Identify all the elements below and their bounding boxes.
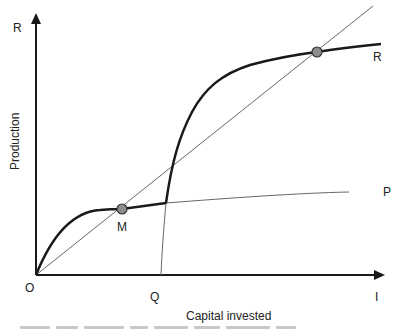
- curve-lower-thick: [36, 203, 166, 275]
- x-axis-arrowhead: [374, 270, 385, 280]
- q-label: Q: [150, 291, 159, 303]
- point-m: [117, 204, 127, 214]
- curve-p-label: P: [383, 186, 391, 198]
- y-axis-title: Production: [9, 113, 21, 170]
- diagonal-line: [36, 6, 373, 275]
- q-vertical-line: [161, 203, 166, 275]
- curve-r-label: R: [373, 51, 382, 63]
- curve-r: [166, 44, 381, 203]
- y-axis-end-label: R: [13, 22, 22, 34]
- origin-label: O: [25, 282, 34, 294]
- y-axis-arrowhead: [31, 13, 41, 24]
- curve-p: [166, 192, 349, 203]
- point-r-intersection: [312, 47, 322, 57]
- m-label: M: [117, 221, 127, 233]
- x-axis-title: Capital invested: [186, 310, 271, 322]
- x-axis-end-label: I: [375, 291, 378, 303]
- production-diagram: [0, 0, 395, 332]
- clipped-caption: [20, 326, 340, 332]
